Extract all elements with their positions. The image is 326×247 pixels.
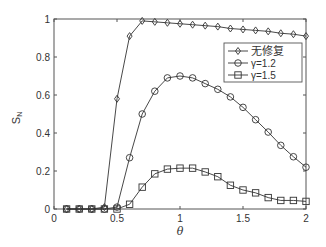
- x-tick-label: 1: [177, 213, 183, 224]
- svg-text:SN: SN: [10, 112, 23, 124]
- x-tick-label: 0.5: [110, 213, 124, 224]
- x-tick-label: 1.5: [236, 213, 250, 224]
- y-tick-label: 0.2: [36, 166, 50, 177]
- line-chart: 00.511.5200.20.40.60.81 无修复γ=1.2γ=1.5 θ …: [0, 0, 326, 247]
- y-axis-label-main: S: [10, 117, 22, 124]
- legend-label: 无修复: [251, 44, 284, 58]
- legend-label: γ=1.2: [251, 58, 276, 69]
- y-axis-label: SN: [10, 112, 23, 124]
- x-axis-label: θ: [177, 225, 184, 238]
- series-line: [67, 168, 306, 209]
- y-tick-label: 0.8: [36, 52, 50, 63]
- y-axis-label-subscript: N: [16, 112, 23, 117]
- y-tick-label: 0.6: [36, 90, 50, 101]
- series-circle: [63, 73, 309, 213]
- legend-label: γ=1.5: [251, 70, 276, 81]
- series-square: [63, 165, 309, 212]
- y-tick-label: 1: [44, 14, 50, 25]
- legend: 无修复γ=1.2γ=1.5: [224, 43, 302, 82]
- series-line: [67, 76, 306, 209]
- x-tick-label: 0: [51, 213, 57, 224]
- x-tick-label: 2: [303, 213, 309, 224]
- y-tick-label: 0: [44, 204, 50, 215]
- y-tick-label: 0.4: [36, 128, 50, 139]
